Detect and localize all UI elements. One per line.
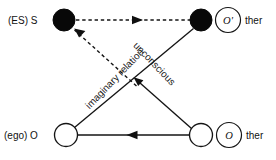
node-other-big[interactable]: [190, 124, 213, 147]
ring-other-prime-glyph: O': [223, 15, 234, 26]
node-other-small[interactable]: [190, 9, 212, 31]
edge-unconscious-line: [136, 79, 192, 129]
node-subject[interactable]: [53, 9, 75, 31]
ring-other-prime-suffix: ther: [245, 15, 263, 26]
node-ego[interactable]: [55, 124, 78, 147]
arrowhead-bottom-left: [127, 131, 138, 139]
node-subject-label: (ES) S: [8, 15, 38, 26]
arrowhead-top-right: [132, 16, 143, 24]
diagram-canvas: (ES) S (ego) O O' ther O ther imaginary …: [0, 0, 276, 160]
arrowhead-imaginary-relation: [74, 29, 85, 38]
node-ego-label: (ego) O: [4, 130, 38, 141]
ring-other-glyph: O: [225, 130, 233, 141]
schema-l-diagram: (ES) S (ego) O O' ther O ther imaginary …: [0, 0, 276, 160]
ring-other-suffix: ther: [246, 130, 264, 141]
